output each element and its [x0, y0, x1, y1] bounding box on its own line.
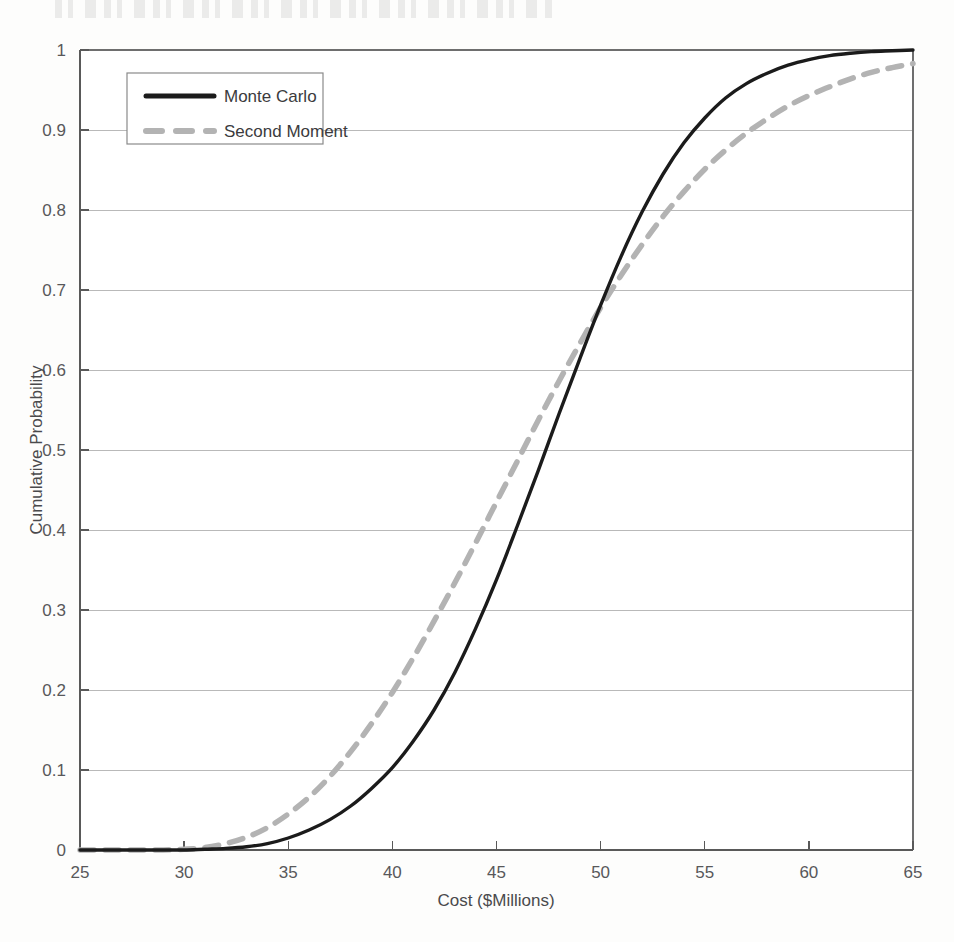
legend-label-monte-carlo: Monte Carlo [224, 87, 317, 106]
legend-label-second-moment: Second Moment [224, 122, 348, 141]
x-axis-tick-labels: 253035404550556065 [71, 863, 923, 882]
x-tick-label: 25 [71, 863, 90, 882]
y-tick-label: 0.2 [42, 681, 66, 700]
y-tick-label: 0.8 [42, 201, 66, 220]
x-tick-label: 35 [279, 863, 298, 882]
chart-legend: Monte CarloSecond Moment [127, 73, 348, 144]
y-axis-title: Cumulative Probability [27, 365, 46, 535]
x-tick-label: 30 [175, 863, 194, 882]
x-axis-title: Cost ($Millions) [437, 891, 554, 910]
y-tick-label: 0.3 [42, 601, 66, 620]
x-tick-label: 50 [591, 863, 610, 882]
chart-page: 253035404550556065 00.10.20.30.40.50.60.… [0, 0, 954, 942]
y-tick-label: 0.9 [42, 121, 66, 140]
y-tick-label: 0.7 [42, 281, 66, 300]
x-tick-label: 60 [799, 863, 818, 882]
x-tick-label: 40 [383, 863, 402, 882]
x-tick-label: 45 [487, 863, 506, 882]
y-tick-label: 0.1 [42, 761, 66, 780]
y-tick-label: 1 [57, 41, 66, 60]
cumulative-probability-chart: 253035404550556065 00.10.20.30.40.50.60.… [0, 0, 954, 942]
y-tick-label: 0 [57, 841, 66, 860]
x-tick-label: 65 [904, 863, 923, 882]
x-tick-label: 55 [695, 863, 714, 882]
